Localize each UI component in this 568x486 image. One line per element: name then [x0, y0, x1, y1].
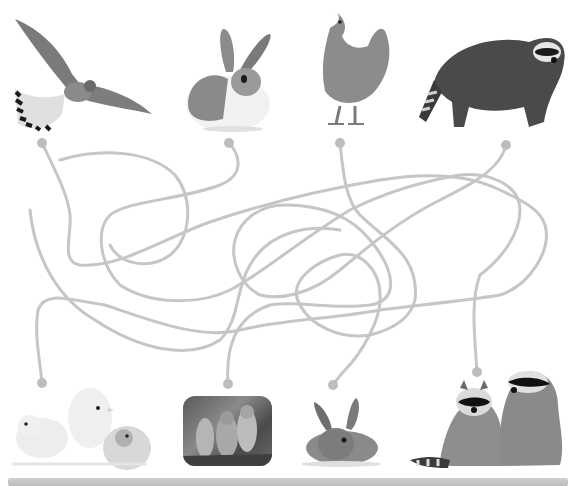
hen-image[interactable] — [300, 6, 395, 131]
dot-raccoon[interactable] — [501, 140, 511, 150]
dot-rabbit[interactable] — [224, 138, 234, 148]
maze-path-kestrel[interactable] — [37, 143, 547, 383]
owlets-image — [183, 396, 272, 466]
rabbit-image[interactable] — [178, 24, 278, 134]
bunny-image[interactable] — [296, 396, 388, 468]
baby-raccoons-image[interactable] — [410, 360, 568, 476]
ground-strip — [8, 478, 568, 486]
raccoon-image[interactable] — [414, 22, 568, 134]
owlets-photo[interactable] — [183, 396, 272, 466]
maze-puzzle: Kestrel (bird) Rabbit Hen Raccoon Chicks… — [0, 0, 568, 486]
dot-bunny[interactable] — [328, 380, 338, 390]
dot-owlets[interactable] — [223, 379, 233, 389]
dot-kestrel[interactable] — [37, 138, 47, 148]
chicks-image[interactable] — [12, 378, 152, 472]
dot-hen[interactable] — [335, 138, 345, 148]
maze-path-hen[interactable] — [296, 143, 415, 385]
kestrel-image[interactable] — [10, 14, 155, 134]
